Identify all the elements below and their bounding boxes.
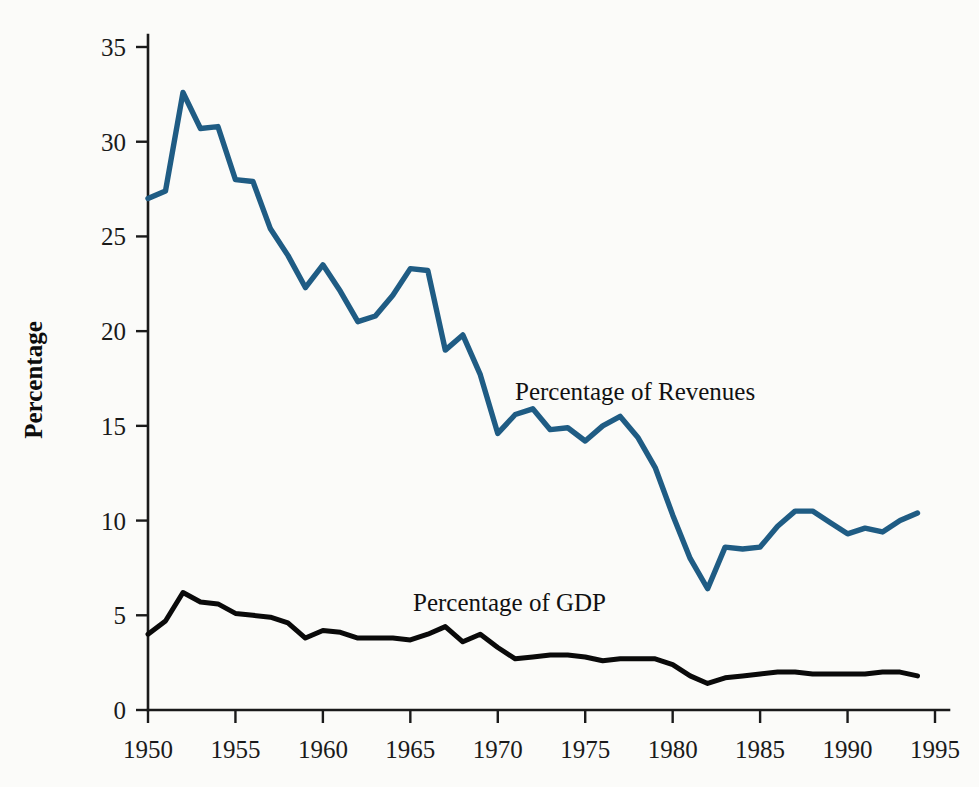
x-tick-label: 1990 — [823, 736, 873, 763]
x-tick-label: 1985 — [735, 736, 785, 763]
series-label-revenues: Percentage of Revenues — [515, 378, 755, 405]
x-tick-label: 1965 — [385, 736, 435, 763]
x-tick-label: 1995 — [910, 736, 960, 763]
y-tick-label: 15 — [101, 413, 126, 440]
x-tick-label: 1950 — [123, 736, 173, 763]
x-tick-label: 1980 — [648, 736, 698, 763]
y-tick-label: 25 — [101, 223, 126, 250]
line-chart-svg: 0510152025303519501955196019651970197519… — [0, 0, 979, 787]
y-tick-label: 20 — [101, 318, 126, 345]
y-axis-title: Percentage — [20, 321, 47, 439]
chart-figure: 0510152025303519501955196019651970197519… — [0, 0, 979, 787]
x-tick-label: 1970 — [473, 736, 523, 763]
y-tick-label: 10 — [101, 508, 126, 535]
series-line-revenues — [148, 92, 918, 588]
x-tick-label: 1960 — [298, 736, 348, 763]
y-tick-label: 30 — [101, 129, 126, 156]
x-tick-label: 1975 — [560, 736, 610, 763]
y-tick-label: 0 — [114, 697, 127, 724]
x-tick-label: 1955 — [210, 736, 260, 763]
y-tick-label: 5 — [114, 602, 127, 629]
series-label-gdp: Percentage of GDP — [413, 589, 606, 616]
y-tick-label: 35 — [101, 34, 126, 61]
